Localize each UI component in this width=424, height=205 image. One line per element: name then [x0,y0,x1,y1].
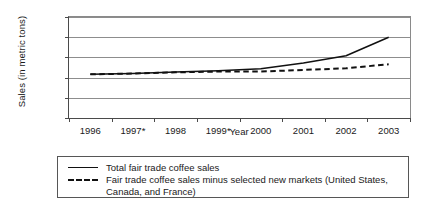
legend-item: Total fair trade coffee sales [66,162,406,174]
x-tick-mark [197,118,198,122]
solid-line-icon [66,162,100,173]
dashed-line-icon [66,174,100,185]
x-tick-mark [112,118,113,122]
x-tick-mark [240,118,241,122]
x-tick-mark [282,118,283,122]
chart-legend: Total fair trade coffee salesFair trade … [57,156,409,198]
plot-area: 0500010000150002000025000 19961997*19981… [68,16,411,119]
x-tick-mark [367,118,368,122]
legend-item: Fair trade coffee sales minus selected n… [66,174,406,197]
x-tick-mark [154,118,155,122]
line-chart-figure: Sales (in metric tons) 05000100001500020… [0,0,424,205]
legend-label: Total fair trade coffee sales [106,162,406,174]
x-tick-mark [69,118,70,122]
x-tick-mark [410,118,411,122]
series-lines [69,17,410,118]
y-axis-title: Sales (in metric tons) [16,3,27,121]
x-tick-mark [325,118,326,122]
x-axis-title: Year [68,126,410,137]
legend-label: Fair trade coffee sales minus selected n… [106,174,406,197]
